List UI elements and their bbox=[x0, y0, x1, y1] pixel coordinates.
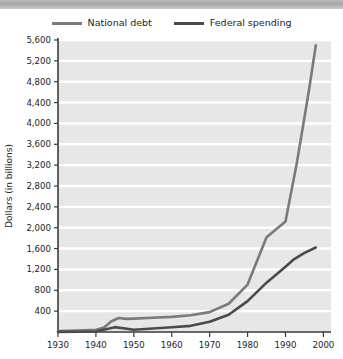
y-axis-tick-label: 5,200 bbox=[26, 56, 51, 66]
y-axis-tick-label: 3,200 bbox=[26, 160, 51, 170]
y-axis-tick-label: 800 bbox=[35, 285, 51, 295]
y-axis-tick-label: 2,400 bbox=[26, 202, 51, 212]
y-axis-tick-label: 3,600 bbox=[26, 139, 51, 149]
y-axis-tick-label: 4,400 bbox=[26, 98, 51, 108]
x-axis-tick-label: 1930 bbox=[47, 340, 69, 350]
x-axis-tick-label: 2000 bbox=[312, 340, 334, 350]
x-axis-tick-label: 1940 bbox=[85, 340, 107, 350]
y-axis-title: Dollars (in billions) bbox=[4, 144, 14, 228]
x-axis-tick-label: 1990 bbox=[275, 340, 297, 350]
y-axis-tick-label: 400 bbox=[35, 306, 51, 316]
x-axis-tick-label: 1960 bbox=[161, 340, 183, 350]
y-axis-tick-label: 5,600 bbox=[26, 35, 51, 45]
x-axis-tick-label: 1970 bbox=[199, 340, 221, 350]
chart-figure: 4008001,2001,6002,0002,4002,8003,2003,60… bbox=[0, 0, 343, 359]
x-axis-tick-label: 1980 bbox=[237, 340, 259, 350]
x-axis-tick-label: 1950 bbox=[123, 340, 145, 350]
y-axis-tick-label: 4,800 bbox=[26, 77, 51, 87]
y-axis-tick-label: 4,000 bbox=[26, 118, 51, 128]
line-chart: 4008001,2001,6002,0002,4002,8003,2003,60… bbox=[0, 0, 343, 359]
y-axis-tick-label: 2,800 bbox=[26, 181, 51, 191]
y-axis-tick-label: 1,600 bbox=[26, 244, 51, 254]
y-axis-tick-label: 2,000 bbox=[26, 223, 51, 233]
y-axis-tick-label: 1,200 bbox=[26, 264, 51, 274]
